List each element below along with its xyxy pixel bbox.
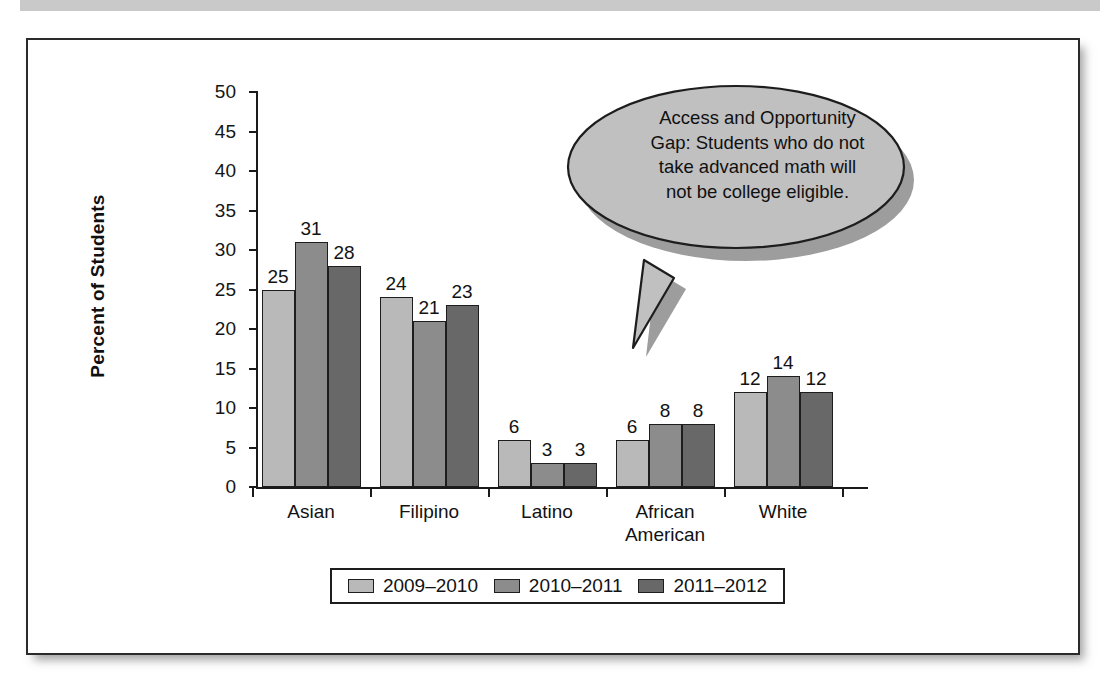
page-top-gray-strip xyxy=(20,0,1100,11)
access-and-opportunity-gap-callout: Access and OpportunityGap: Students who … xyxy=(560,78,960,378)
legend-label-2011–2012: 2011–2012 xyxy=(673,575,767,597)
legend: 2009–20102010–20112011–2012 xyxy=(330,568,785,604)
legend-swatch-2009–2010 xyxy=(348,579,374,593)
legend-item-2009–2010[interactable]: 2009–2010 xyxy=(348,575,478,597)
legend-item-2010–2011[interactable]: 2010–2011 xyxy=(494,575,623,597)
legend-swatch-2010–2011 xyxy=(494,579,520,593)
callout-text-line: take advanced math will xyxy=(605,155,910,180)
callout-text-line: Gap: Students who do not xyxy=(605,131,910,156)
legend-label-2010–2011: 2010–2011 xyxy=(529,575,623,597)
legend-swatch-2011–2012 xyxy=(638,579,664,593)
legend-item-2011–2012[interactable]: 2011–2012 xyxy=(638,575,767,597)
legend-label-2009–2010: 2009–2010 xyxy=(383,575,478,597)
callout-text: Access and OpportunityGap: Students who … xyxy=(605,106,910,204)
callout-text-line: not be college eligible. xyxy=(605,180,910,205)
callout-text-line: Access and Opportunity xyxy=(605,106,910,131)
